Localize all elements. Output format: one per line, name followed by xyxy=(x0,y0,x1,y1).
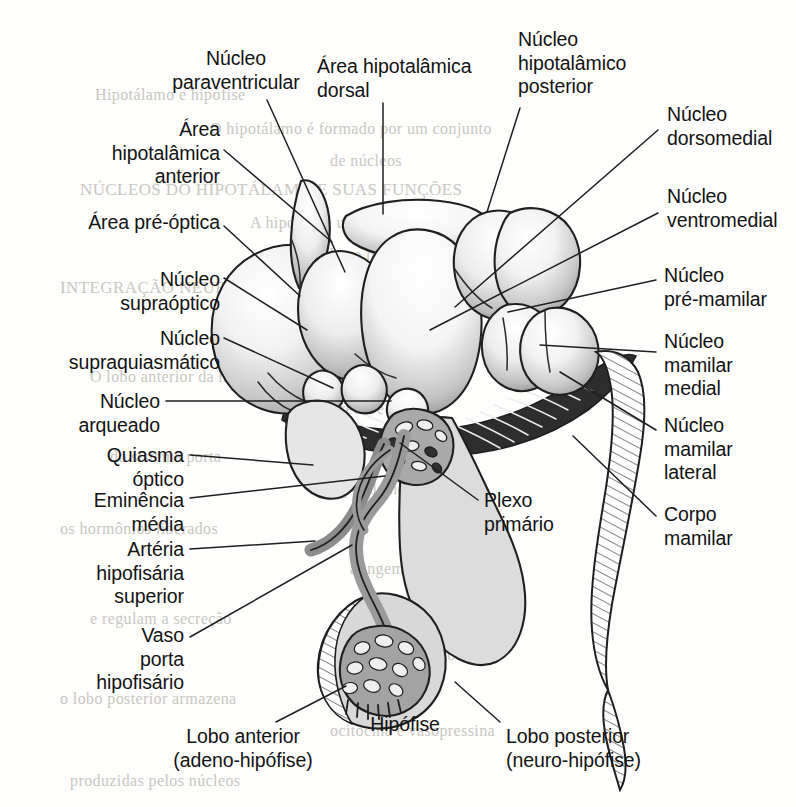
label-nucleo-dorsomedial: Núcleo dorsomedial xyxy=(667,103,796,150)
label-nucleo-pre-mamilar: Núcleo pré-mamilar xyxy=(664,264,796,311)
label-nucleo-hipotalamico-posterior: Núcleo hipotalâmico posterior xyxy=(518,28,683,99)
lobe-dorsomedial xyxy=(495,208,580,316)
label-quiasma-optico: Quiasma óptico xyxy=(40,444,184,491)
label-nucleo-supraquiasmatico: Núcleo supraquiasmático xyxy=(14,327,220,374)
optic-chiasm xyxy=(286,401,365,499)
label-nucleo-paraventricular: Núcleo paraventricular xyxy=(151,47,321,94)
mammillary-body xyxy=(520,308,599,395)
leader-arteria-hipofisaria-superior xyxy=(190,541,315,549)
label-nucleo-arqueado: Núcleo arqueado xyxy=(30,390,160,437)
label-plexo-primario: Plexo primário xyxy=(484,489,614,536)
label-lobo-posterior: Lobo posterior (neuro-hipófise) xyxy=(506,725,716,772)
label-hipofise: Hipófise xyxy=(350,713,460,737)
leader-vaso-porta-hipofisario xyxy=(190,545,352,637)
label-lobo-anterior: Lobo anterior (adeno-hipófise) xyxy=(138,725,348,772)
label-nucleo-supraoptico: Núcleo supraóptico xyxy=(22,268,220,315)
label-arteria-hipofisaria-superior: Artéria hipofisária superior xyxy=(40,538,184,609)
label-eminencia-media: Eminência média xyxy=(30,489,184,536)
label-area-hipotalamica-anterior: Área hipotalâmica anterior xyxy=(60,118,220,189)
leader-lobo-posterior xyxy=(455,682,500,722)
label-corpo-mamilar: Corpo mamilar xyxy=(664,503,796,550)
label-nucleo-mamilar-medial: Núcleo mamilar medial xyxy=(664,330,796,401)
label-nucleo-mamilar-lateral: Núcleo mamilar lateral xyxy=(664,414,796,485)
label-nucleo-ventromedial: Núcleo ventromedial xyxy=(667,185,796,232)
leader-nucleo-hipotalamico-posterior xyxy=(487,108,520,212)
label-area-pre-optica: Área pré-óptica xyxy=(36,211,220,235)
label-vaso-porta-hipofisario: Vaso porta hipofisário xyxy=(30,624,184,695)
hypothalamus-pituitary-figure: Hipotálamo e hipófiseO hipotálamo é form… xyxy=(0,0,796,807)
label-area-hipotalamica-dorsal: Área hipotalâmica dorsal xyxy=(317,55,517,102)
